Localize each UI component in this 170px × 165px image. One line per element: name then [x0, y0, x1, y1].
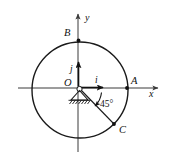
- point-b-dot: [77, 39, 81, 43]
- point-b-label: B: [64, 27, 71, 38]
- unit-vector-i-label: i: [95, 75, 98, 85]
- point-c-label: C: [119, 124, 127, 135]
- point-c-dot: [112, 122, 116, 126]
- angle-label-45: 45°: [100, 99, 114, 109]
- ground-hatching: [70, 100, 91, 104]
- mechanics-figure-canvas: x y O A B C i j 45°: [0, 0, 170, 165]
- point-a-dot: [125, 86, 129, 90]
- figure-svg: x y O A B C i j 45°: [0, 0, 170, 165]
- pin-support-group: [69, 86, 91, 104]
- point-a-label: A: [130, 75, 138, 86]
- origin-label: O: [64, 77, 72, 88]
- x-axis-label: x: [148, 88, 154, 99]
- y-axis-label: y: [84, 12, 90, 23]
- unit-vector-j-label: j: [68, 64, 73, 74]
